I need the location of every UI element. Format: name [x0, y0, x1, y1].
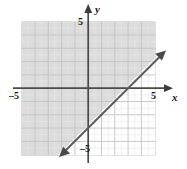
- coordinate-plane-svg: [0, 0, 187, 169]
- y-tick-label-positive-5: 5: [78, 17, 83, 27]
- graph-figure: y x 5 –5 –5 5: [0, 0, 187, 169]
- y-axis-label: y: [95, 4, 100, 15]
- x-tick-label-negative-5: –5: [9, 91, 19, 101]
- x-axis-label: x: [172, 92, 178, 103]
- x-tick-label-positive-5: 5: [151, 91, 156, 101]
- y-tick-label-negative-5: –5: [80, 144, 90, 154]
